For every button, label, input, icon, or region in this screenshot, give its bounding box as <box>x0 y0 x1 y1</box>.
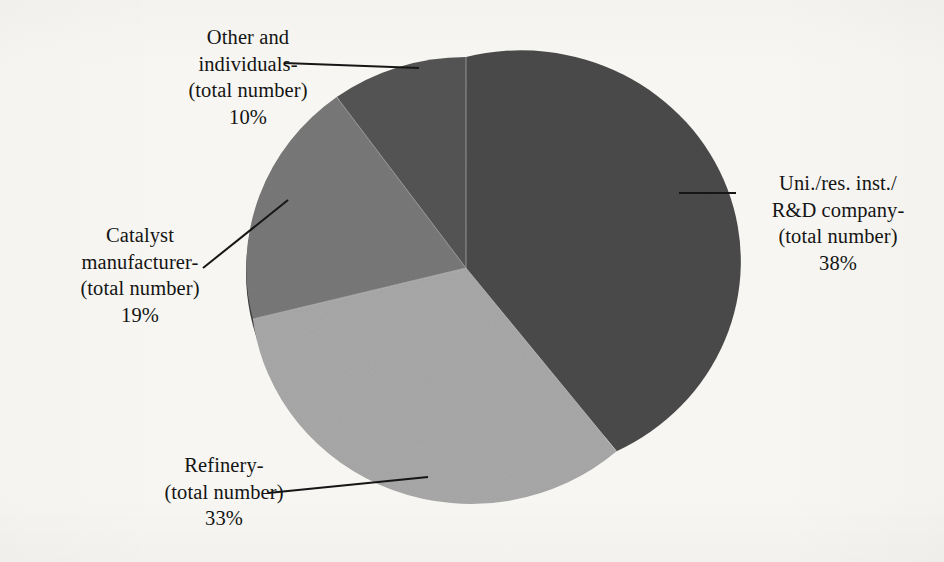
label-line: Uni./res. inst./ <box>740 170 936 197</box>
label-line: (total number) <box>148 77 348 104</box>
label-value-percent: 33% <box>108 505 340 532</box>
slice-label-catalyst-manufacturer: Catalyst manufacturer- (total number) 19… <box>28 222 252 329</box>
label-line: (total number) <box>740 223 936 250</box>
slice-label-refinery: Refinery- (total number) 33% <box>108 452 340 532</box>
label-value-percent: 10% <box>148 104 348 131</box>
slice-label-other-and-individuals: Other and individuals- (total number) 10… <box>148 24 348 131</box>
label-line: R&D company- <box>740 197 936 224</box>
label-line: Other and <box>148 24 348 51</box>
label-line: Catalyst <box>28 222 252 249</box>
label-line: Refinery- <box>108 452 340 479</box>
label-line: individuals- <box>148 51 348 78</box>
label-line: (total number) <box>108 479 340 506</box>
slice-label-uni-res-inst-rd-company: Uni./res. inst./ R&D company- (total num… <box>740 170 936 277</box>
label-value-percent: 19% <box>28 302 252 329</box>
label-line: manufacturer- <box>28 249 252 276</box>
pie-chart-figure: Other and individuals- (total number) 10… <box>0 0 944 562</box>
label-value-percent: 38% <box>740 250 936 277</box>
label-line: (total number) <box>28 275 252 302</box>
